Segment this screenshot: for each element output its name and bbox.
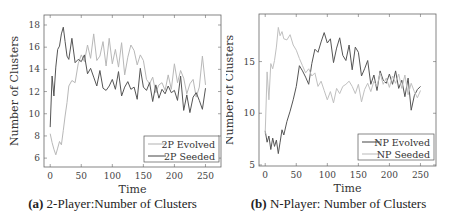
y-axis-label: Number of Clusters	[226, 35, 236, 145]
y-tick-label: 8	[34, 131, 40, 141]
x-tick-label: 200	[166, 171, 183, 181]
caption-text-b: N-Player: Number of Clusters	[267, 196, 427, 211]
y-tick-label: 16	[29, 42, 41, 52]
y-axis-label: Number of Clusters	[8, 36, 21, 146]
x-axis-label: Time	[334, 182, 362, 195]
y-tick-label: 10	[29, 109, 41, 119]
caption-b: (b) N-Player: Number of Clusters	[226, 196, 451, 212]
caption-label-a: (a)	[28, 196, 43, 211]
x-tick-label: 250	[197, 171, 214, 181]
x-tick-label: 0	[47, 171, 53, 181]
y-tick-label: 14	[29, 64, 41, 74]
x-tick-label: 150	[135, 171, 152, 181]
chart-panel-b: 05010015020025051015TimeNumber of Cluste…	[226, 0, 451, 222]
legend-entry: 2P Evolved	[161, 139, 215, 150]
x-axis-label: Time	[119, 183, 147, 196]
legend: NP EvolvedNP Seeded	[358, 134, 434, 160]
series-line-2p-seeded	[50, 27, 205, 127]
x-tick-label: 150	[350, 170, 367, 180]
chart-panel-a: 050100150200250681012141618TimeNumber of…	[0, 0, 225, 222]
legend: 2P Evolved2P Seeded	[144, 136, 219, 162]
x-tick-label: 250	[412, 170, 429, 180]
caption-label-b: (b)	[251, 196, 267, 211]
x-tick-label: 200	[381, 170, 398, 180]
x-tick-label: 0	[262, 170, 268, 180]
y-tick-label: 15	[244, 57, 256, 67]
x-tick-label: 50	[291, 170, 303, 180]
legend-entry: NP Seeded	[377, 149, 430, 160]
line-chart-n-player: 05010015020025051015TimeNumber of Cluste…	[226, 0, 451, 200]
y-tick-label: 12	[29, 87, 40, 97]
line-chart-2-player: 050100150200250681012141618TimeNumber of…	[0, 0, 225, 200]
x-tick-label: 50	[76, 171, 88, 181]
x-tick-label: 100	[319, 170, 336, 180]
caption-text-a: 2-Player:Number of Clusters	[43, 196, 196, 211]
legend-entry: NP Evolved	[374, 137, 430, 148]
y-tick-label: 10	[244, 108, 256, 118]
legend-entry: 2P Seeded	[164, 151, 215, 162]
y-tick-label: 6	[34, 153, 40, 163]
x-tick-label: 100	[104, 171, 121, 181]
caption-a: (a) 2-Player:Number of Clusters	[0, 196, 225, 212]
y-tick-label: 18	[29, 20, 41, 30]
y-tick-label: 5	[249, 160, 255, 170]
